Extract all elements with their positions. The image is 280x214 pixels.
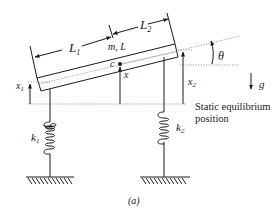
theta-rotation-arrow (211, 41, 213, 64)
x1-label: x1 (15, 80, 24, 93)
center-of-mass-dot (118, 62, 122, 66)
L2-dimension-arrow-left (113, 27, 138, 34)
right-dimension-extension (167, 13, 175, 44)
left-dimension-extension (30, 46, 37, 78)
x-label: x (123, 69, 129, 80)
k2-label: k2 (176, 121, 185, 135)
k1-label: k1 (31, 131, 39, 145)
ground-left (26, 177, 74, 184)
L2-dimension-arrow-right (148, 19, 168, 24)
L1-dimension-arrow (35, 50, 62, 57)
theta-label: θ (218, 49, 224, 63)
L2-label: L2 (139, 17, 151, 34)
spring-k1 (44, 89, 56, 177)
ground-right (140, 177, 190, 184)
x2-label: x2 (187, 76, 196, 89)
spring-k2 (158, 57, 169, 177)
static-equilibrium-label: Static equilibrium (195, 101, 271, 112)
L1-label: L1 (68, 40, 80, 57)
g-label: g (259, 78, 265, 90)
static-equilibrium-label-2: position (195, 113, 230, 124)
figure-caption: (a) (128, 195, 140, 207)
center-dimension-tick (109, 25, 113, 38)
mass-length-label: m, L (108, 41, 126, 52)
L1-dimension-arrow-right (82, 37, 111, 46)
rigid-bar-two-spring-diagram: L1 L2 m, L c x x1 x2 θ g Static equilibr… (0, 0, 280, 214)
center-label: c (110, 58, 115, 69)
